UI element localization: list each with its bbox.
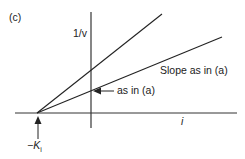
ki-label-main: −K — [27, 139, 40, 151]
steep-line — [37, 14, 162, 113]
y-axis-label: 1/v — [73, 28, 87, 39]
x-axis-label: i — [181, 116, 183, 127]
ki-label: −Ki — [27, 140, 42, 153]
diagram-canvas — [0, 0, 245, 159]
ki-label-subscript: i — [40, 146, 42, 153]
intercept-arrow-label: as in (a) — [117, 85, 155, 96]
shallow-line-label: Slope as in (a) — [160, 65, 228, 76]
ki-arrow-head-icon — [35, 116, 42, 124]
panel-label: (c) — [9, 12, 21, 23]
